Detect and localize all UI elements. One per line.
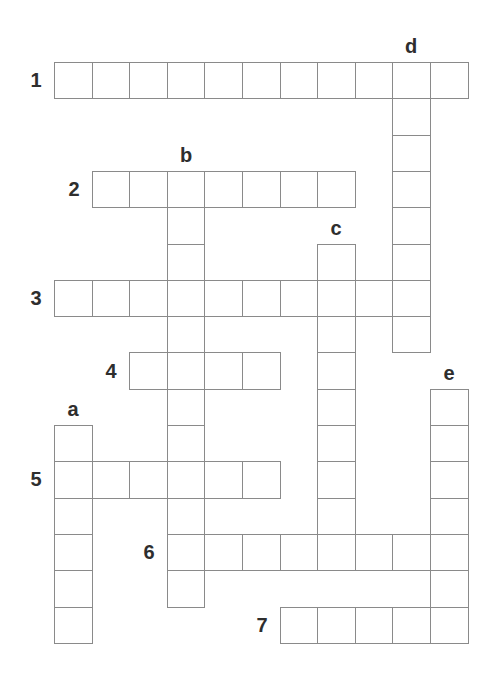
crossword-cell[interactable] xyxy=(355,534,393,571)
crossword-cell[interactable] xyxy=(167,389,205,426)
crossword-cell[interactable] xyxy=(92,461,130,499)
crossword-cell[interactable] xyxy=(204,352,243,390)
crossword-cell[interactable] xyxy=(392,207,431,245)
crossword-cell[interactable] xyxy=(54,607,93,644)
across-clue-number: 1 xyxy=(26,70,46,90)
crossword-cell[interactable] xyxy=(54,498,93,535)
crossword-cell[interactable] xyxy=(317,389,356,426)
crossword-cell[interactable] xyxy=(355,280,393,317)
crossword-cell[interactable] xyxy=(430,607,469,644)
crossword-cell[interactable] xyxy=(167,244,205,281)
crossword-cell[interactable] xyxy=(204,171,243,208)
across-clue-number: 3 xyxy=(26,288,46,308)
crossword-cell[interactable] xyxy=(129,171,168,208)
crossword-cell[interactable] xyxy=(167,207,205,245)
crossword-cell[interactable] xyxy=(54,461,93,499)
crossword-cell[interactable] xyxy=(317,171,356,208)
crossword-cell[interactable] xyxy=(92,171,130,208)
crossword-cell[interactable] xyxy=(392,135,431,172)
crossword-cell[interactable] xyxy=(242,171,281,208)
crossword-cell[interactable] xyxy=(167,570,205,608)
crossword-cell[interactable] xyxy=(317,534,356,571)
across-clue-number: 7 xyxy=(252,615,272,635)
down-clue-number: c xyxy=(326,218,346,238)
crossword-cell[interactable] xyxy=(204,62,243,99)
crossword-cell[interactable] xyxy=(242,461,281,499)
down-clue-number: a xyxy=(63,399,83,419)
crossword-cell[interactable] xyxy=(392,98,431,136)
crossword-cell[interactable] xyxy=(242,534,281,571)
crossword-cell[interactable] xyxy=(242,352,281,390)
crossword-cell[interactable] xyxy=(280,171,318,208)
crossword-cell[interactable] xyxy=(392,244,431,281)
crossword-cell[interactable] xyxy=(129,280,168,317)
crossword-cell[interactable] xyxy=(317,425,356,462)
crossword-cell[interactable] xyxy=(392,62,431,99)
across-clue-number: 4 xyxy=(101,361,121,381)
crossword-cell[interactable] xyxy=(167,171,205,208)
crossword-cell[interactable] xyxy=(167,352,205,390)
crossword-cell[interactable] xyxy=(355,607,393,644)
crossword-cell[interactable] xyxy=(280,62,318,99)
crossword-cell[interactable] xyxy=(317,62,356,99)
crossword-cell[interactable] xyxy=(92,280,130,317)
crossword-cell[interactable] xyxy=(317,607,356,644)
crossword-puzzle: 1234567abcde xyxy=(0,0,489,679)
crossword-cell[interactable] xyxy=(430,498,469,535)
crossword-cell[interactable] xyxy=(355,62,393,99)
crossword-cell[interactable] xyxy=(280,534,318,571)
down-clue-number: e xyxy=(439,363,459,383)
crossword-cell[interactable] xyxy=(430,570,469,608)
crossword-cell[interactable] xyxy=(392,280,431,317)
crossword-cell[interactable] xyxy=(204,534,243,571)
crossword-cell[interactable] xyxy=(430,461,469,499)
crossword-cell[interactable] xyxy=(392,171,431,208)
crossword-cell[interactable] xyxy=(54,570,93,608)
crossword-cell[interactable] xyxy=(317,280,356,317)
crossword-cell[interactable] xyxy=(204,461,243,499)
down-clue-number: b xyxy=(176,145,196,165)
crossword-cell[interactable] xyxy=(167,280,205,317)
crossword-cell[interactable] xyxy=(392,316,431,353)
crossword-cell[interactable] xyxy=(204,280,243,317)
crossword-cell[interactable] xyxy=(280,280,318,317)
crossword-cell[interactable] xyxy=(317,316,356,353)
across-clue-number: 5 xyxy=(26,469,46,489)
crossword-cell[interactable] xyxy=(317,461,356,499)
crossword-cell[interactable] xyxy=(129,461,168,499)
crossword-cell[interactable] xyxy=(54,62,93,99)
crossword-cell[interactable] xyxy=(392,607,431,644)
crossword-cell[interactable] xyxy=(430,389,469,426)
crossword-cell[interactable] xyxy=(92,62,130,99)
crossword-cell[interactable] xyxy=(167,461,205,499)
crossword-cell[interactable] xyxy=(167,316,205,353)
crossword-cell[interactable] xyxy=(430,62,469,99)
crossword-cell[interactable] xyxy=(242,280,281,317)
crossword-cell[interactable] xyxy=(167,62,205,99)
crossword-cell[interactable] xyxy=(54,280,93,317)
crossword-cell[interactable] xyxy=(317,498,356,535)
crossword-cell[interactable] xyxy=(54,534,93,571)
across-clue-number: 2 xyxy=(64,179,84,199)
crossword-cell[interactable] xyxy=(167,534,205,571)
crossword-cell[interactable] xyxy=(129,62,168,99)
crossword-cell[interactable] xyxy=(54,425,93,462)
crossword-cell[interactable] xyxy=(317,352,356,390)
crossword-cell[interactable] xyxy=(280,607,318,644)
across-clue-number: 6 xyxy=(139,542,159,562)
crossword-cell[interactable] xyxy=(430,425,469,462)
down-clue-number: d xyxy=(401,36,421,56)
crossword-cell[interactable] xyxy=(167,498,205,535)
crossword-cell[interactable] xyxy=(430,534,469,571)
crossword-cell[interactable] xyxy=(317,244,356,281)
crossword-cell[interactable] xyxy=(392,534,431,571)
crossword-cell[interactable] xyxy=(242,62,281,99)
crossword-cell[interactable] xyxy=(129,352,168,390)
crossword-cell[interactable] xyxy=(167,425,205,462)
